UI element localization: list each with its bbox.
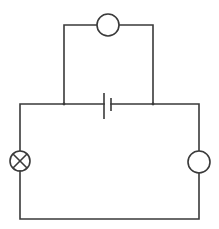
wire-main-top-right bbox=[111, 104, 199, 151]
main-top-wire bbox=[20, 93, 199, 151]
junction-left bbox=[63, 103, 66, 106]
wire-main-top-left bbox=[20, 104, 104, 151]
upper-loop bbox=[64, 14, 153, 104]
wire-top-left bbox=[64, 25, 97, 104]
circuit-svg bbox=[0, 0, 219, 229]
circuit-diagram bbox=[0, 0, 219, 229]
meter-top-icon bbox=[97, 14, 119, 36]
wire-top-right bbox=[119, 25, 153, 104]
junction-right bbox=[152, 103, 155, 106]
wire-bottom bbox=[20, 171, 199, 219]
meter-right-icon bbox=[188, 151, 210, 173]
lamp bbox=[10, 151, 30, 171]
